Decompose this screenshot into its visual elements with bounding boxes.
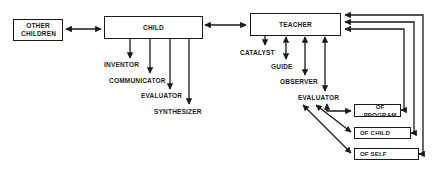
teacher-role-catalyst: CATALYST: [240, 49, 275, 56]
diagram-canvas: OTHER CHILDREN CHILD TEACHER INVENTOR CO…: [0, 0, 436, 171]
child-role-inventor: INVENTOR: [104, 61, 139, 68]
child-role-communicator: COMMUNICATOR: [109, 77, 166, 84]
of-self-label: OF SELF: [360, 150, 387, 158]
other-children-label: OTHER CHILDREN: [21, 22, 55, 38]
other-children-node: OTHER CHILDREN: [13, 19, 63, 41]
of-program-label: OF PROGRAM: [360, 103, 400, 119]
teacher-role-observer: OBSERVER: [280, 78, 318, 85]
teacher-label: TEACHER: [279, 21, 312, 29]
child-role-synthesizer: SYNTHESIZER: [154, 108, 202, 115]
child-role-evaluator: EVALUATOR: [141, 92, 182, 99]
of-child-label: OF CHILD: [360, 129, 390, 137]
teacher-node: TEACHER: [250, 13, 341, 36]
of-child-node: OF CHILD: [354, 127, 411, 139]
of-self-node: OF SELF: [354, 148, 419, 160]
of-program-node: OF PROGRAM: [354, 104, 401, 117]
child-label: CHILD: [143, 24, 164, 32]
teacher-role-evaluator: EVALUATOR: [298, 94, 339, 101]
connector-lines: [0, 0, 436, 171]
teacher-role-guide: GUIDE: [271, 63, 293, 70]
child-node: CHILD: [104, 16, 203, 39]
